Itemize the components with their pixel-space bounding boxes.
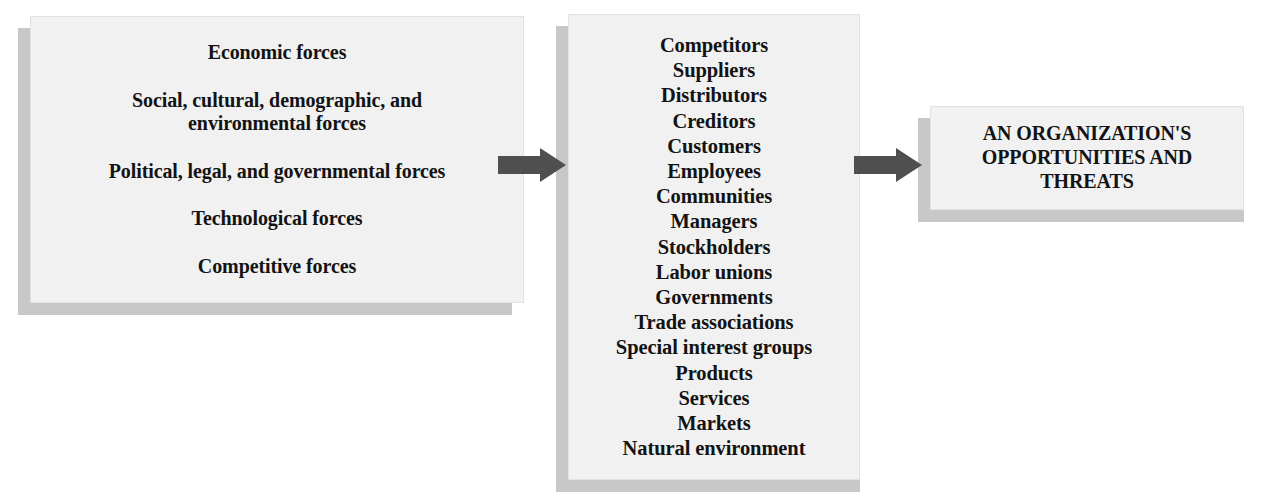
stakeholders-box-shadow-bottom (556, 480, 860, 492)
stakeholder-item: Managers (671, 209, 758, 234)
diagram-canvas: Economic forces Social, cultural, demogr… (0, 0, 1268, 502)
stakeholder-item: Customers (667, 134, 761, 159)
arrow-head (540, 148, 566, 182)
outcome-line: AN ORGANIZATION'S (945, 121, 1229, 145)
stakeholder-item: Trade associations (635, 310, 794, 335)
stakeholder-item: Services (679, 386, 750, 411)
external-force-line: Competitive forces (49, 255, 505, 279)
external-forces-box-shadow-left (18, 28, 30, 315)
stakeholder-item: Natural environment (623, 436, 806, 461)
stakeholder-item: Special interest groups (616, 335, 812, 360)
arrow-head (896, 148, 922, 182)
stakeholder-item: Governments (655, 285, 772, 310)
stakeholder-item: Labor unions (656, 260, 772, 285)
outcome-line: THREATS (945, 169, 1229, 193)
stakeholder-item: Markets (677, 411, 750, 436)
stakeholders-box-shadow-left (556, 26, 568, 492)
external-force-line: Social, cultural, demographic, and envir… (112, 89, 442, 136)
stakeholder-item: Competitors (660, 33, 768, 58)
stakeholders-list: Competitors Suppliers Distributors Credi… (569, 15, 859, 479)
stakeholder-item: Stockholders (658, 235, 771, 260)
stakeholders-box: Competitors Suppliers Distributors Credi… (568, 14, 860, 480)
stakeholder-item: Products (675, 361, 752, 386)
external-forces-box: Economic forces Social, cultural, demogr… (30, 16, 524, 303)
stakeholder-item: Distributors (661, 83, 767, 108)
external-force-line: Technological forces (49, 207, 505, 231)
stakeholder-item: Suppliers (673, 58, 755, 83)
external-forces-box-shadow-bottom (18, 303, 512, 315)
outcome-box-shadow-bottom (918, 210, 1244, 222)
outcome-line: OPPORTUNITIES AND (945, 145, 1229, 169)
arrow-shaft (854, 156, 898, 174)
external-force-line: Economic forces (49, 41, 505, 65)
stakeholder-item: Creditors (673, 109, 756, 134)
external-force-line: Political, legal, and governmental force… (49, 160, 505, 184)
outcome-box: AN ORGANIZATION'S OPPORTUNITIES AND THRE… (930, 106, 1244, 210)
arrow-stakeholders-to-outcome (854, 148, 922, 182)
arrow-external-to-stakeholders (498, 148, 566, 182)
stakeholder-item: Communities (656, 184, 772, 209)
stakeholder-item: Employees (667, 159, 761, 184)
arrow-shaft (498, 156, 542, 174)
